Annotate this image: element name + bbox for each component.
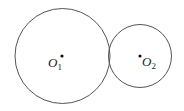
- label-o2: O2: [142, 54, 156, 71]
- tangent-circles-diagram: O1 O2: [0, 0, 184, 111]
- center-point-o1: [60, 54, 63, 57]
- label-o1: O1: [48, 55, 62, 72]
